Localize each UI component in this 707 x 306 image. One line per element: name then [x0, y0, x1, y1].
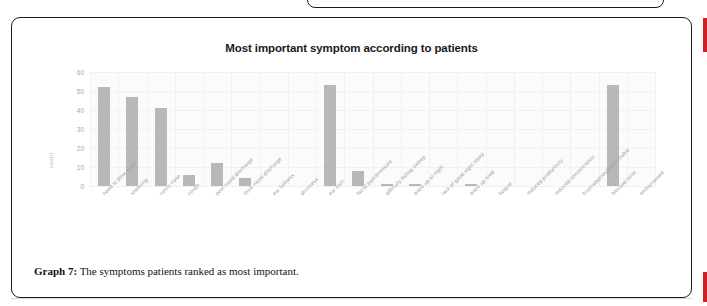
- gridline-vertical: [90, 72, 91, 186]
- gridline-vertical: [344, 72, 345, 186]
- bar: [324, 85, 336, 186]
- figure-caption: Graph 7: The symptoms patients ranked as…: [34, 265, 299, 277]
- gridline-vertical: [457, 72, 458, 186]
- chart-plot-wrapper: count 0102030405060 need to blow nosesne…: [12, 64, 693, 254]
- y-tick-label: 40: [58, 107, 84, 114]
- gridline-vertical: [401, 72, 402, 186]
- gridline-vertical: [147, 72, 148, 186]
- gridline-vertical: [429, 72, 430, 186]
- bar: [155, 108, 167, 186]
- gridline-vertical: [203, 72, 204, 186]
- red-accent-bar-top: [703, 18, 707, 52]
- y-tick-label: 10: [58, 164, 84, 171]
- y-tick-label: 0: [58, 183, 84, 190]
- caption-text: The symptoms patients ranked as most imp…: [77, 265, 299, 277]
- gridline-vertical: [655, 72, 656, 186]
- gridline-vertical: [231, 72, 232, 186]
- y-tick-label: 60: [58, 69, 84, 76]
- figure-card: Most important symptom according to pati…: [11, 17, 692, 298]
- gridline-horizontal: [90, 186, 655, 187]
- red-accent-bar-bottom: [703, 272, 707, 302]
- top-partial-box: [307, 0, 664, 8]
- y-tick-label: 30: [58, 126, 84, 133]
- gridline-vertical: [260, 72, 261, 186]
- plot-area: [90, 72, 655, 186]
- gridline-vertical: [570, 72, 571, 186]
- y-tick-label: 50: [58, 88, 84, 95]
- gridline-vertical: [118, 72, 119, 186]
- gridline-vertical: [627, 72, 628, 186]
- gridline-vertical: [175, 72, 176, 186]
- gridline-vertical: [599, 72, 600, 186]
- y-axis-title: count: [48, 153, 54, 168]
- bar: [211, 163, 223, 186]
- chart-title: Most important symptom according to pati…: [12, 42, 691, 54]
- y-tick-label: 20: [58, 145, 84, 152]
- caption-label: Graph 7:: [34, 265, 77, 277]
- gridline-vertical: [316, 72, 317, 186]
- page-bottom-rule: [11, 298, 692, 299]
- bar: [98, 87, 110, 186]
- gridline-vertical: [542, 72, 543, 186]
- gridline-vertical: [288, 72, 289, 186]
- gridline-vertical: [373, 72, 374, 186]
- gridline-vertical: [486, 72, 487, 186]
- x-axis-labels: need to blow nosesneezingrunny nosecough…: [90, 192, 655, 254]
- gridline-vertical: [514, 72, 515, 186]
